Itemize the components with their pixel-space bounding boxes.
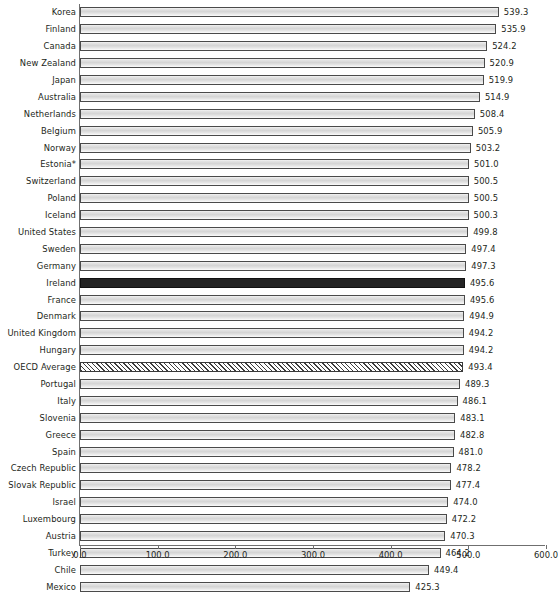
bar	[80, 447, 454, 457]
value-label: 495.6	[470, 278, 494, 288]
x-tick-mark	[391, 545, 392, 549]
category-label: Germany	[0, 261, 76, 271]
category-label: Korea	[0, 7, 76, 17]
value-label: 494.9	[469, 311, 493, 321]
bar	[80, 227, 468, 237]
value-label: 500.3	[474, 210, 498, 220]
bar-row: Austria470.3	[0, 528, 557, 545]
bar	[80, 92, 480, 102]
value-label: 497.3	[471, 261, 495, 271]
bar	[80, 58, 485, 68]
bar-row: Australia514.9	[0, 88, 557, 105]
bar	[80, 41, 487, 51]
bar	[80, 75, 484, 85]
bar	[80, 480, 451, 490]
bar-track: 495.6	[80, 278, 546, 288]
bar	[80, 582, 410, 592]
x-axis-ticks: 0.0100.0200.0300.0400.0500.0600.0	[0, 545, 557, 573]
bar	[80, 143, 471, 153]
x-tick-label: 100.0	[146, 550, 170, 561]
bar-track: 497.4	[80, 244, 546, 254]
bar-row: Italy486.1	[0, 392, 557, 409]
bar-track: 483.1	[80, 413, 546, 423]
bar-track: 474.0	[80, 497, 546, 507]
value-label: 514.9	[485, 92, 509, 102]
bar	[80, 362, 463, 372]
bar-track: 497.3	[80, 261, 546, 271]
value-label: 500.5	[474, 193, 498, 203]
category-label: Switzerland	[0, 176, 76, 186]
bar-track: 505.9	[80, 126, 546, 136]
bar-track: 494.9	[80, 311, 546, 321]
category-label: Austria	[0, 531, 76, 541]
value-label: 497.4	[471, 244, 495, 254]
bar-track: 489.3	[80, 379, 546, 389]
x-tick-label: 600.0	[534, 550, 558, 561]
category-label: Greece	[0, 430, 76, 440]
bar-track: 478.2	[80, 463, 546, 473]
value-label: 500.5	[474, 176, 498, 186]
bar-track: 508.4	[80, 109, 546, 119]
bar	[80, 7, 499, 17]
bar-row: Sweden497.4	[0, 240, 557, 257]
x-tick-label: 0.0	[73, 550, 86, 561]
bar-row: Denmark494.9	[0, 308, 557, 325]
value-label: 482.8	[460, 430, 484, 440]
bar-row: Iceland500.3	[0, 207, 557, 224]
category-label: Spain	[0, 447, 76, 457]
bar	[80, 278, 465, 288]
x-tick-label: 500.0	[456, 550, 480, 561]
value-label: 519.9	[489, 75, 513, 85]
bar-row: Mexico425.3	[0, 578, 557, 595]
value-label: 486.1	[463, 396, 487, 406]
bar	[80, 109, 475, 119]
bar	[80, 159, 469, 169]
bar-row: Slovak Republic477.4	[0, 477, 557, 494]
bar-row: United States499.8	[0, 224, 557, 241]
bar	[80, 244, 466, 254]
value-label: 477.4	[456, 480, 480, 490]
bar-track: 500.5	[80, 193, 546, 203]
bar-row: Canada524.2	[0, 38, 557, 55]
category-label: United States	[0, 227, 76, 237]
bar-row: Israel474.0	[0, 494, 557, 511]
bar-track: 514.9	[80, 92, 546, 102]
value-label: 493.4	[468, 362, 492, 372]
category-label: Slovak Republic	[0, 480, 76, 490]
x-tick-mark	[468, 545, 469, 549]
bar	[80, 261, 466, 271]
bar-row: Japan519.9	[0, 72, 557, 89]
category-label: United Kingdom	[0, 328, 76, 338]
value-label: 474.0	[453, 497, 477, 507]
bar-row: Hungary494.2	[0, 342, 557, 359]
category-label: Luxembourg	[0, 514, 76, 524]
x-tick-mark	[80, 545, 81, 549]
bar-row: Slovenia483.1	[0, 409, 557, 426]
category-label: Norway	[0, 143, 76, 153]
value-label: 494.2	[469, 345, 493, 355]
bar-row: Poland500.5	[0, 190, 557, 207]
bar-track: 501.0	[80, 159, 546, 169]
bar-track: 477.4	[80, 480, 546, 490]
category-label: Portugal	[0, 379, 76, 389]
bar-row: Estonia*501.0	[0, 156, 557, 173]
bar-track: 472.2	[80, 514, 546, 524]
bar-row: Switzerland500.5	[0, 173, 557, 190]
bar-row: Belgium505.9	[0, 122, 557, 139]
category-label: Hungary	[0, 345, 76, 355]
bar-row: Germany497.3	[0, 257, 557, 274]
value-label: 425.3	[415, 582, 439, 592]
category-label: Iceland	[0, 210, 76, 220]
category-label: Israel	[0, 497, 76, 507]
bar	[80, 176, 469, 186]
value-label: 495.6	[470, 295, 494, 305]
category-label: France	[0, 295, 76, 305]
bar-track: 499.8	[80, 227, 546, 237]
value-label: 494.2	[469, 328, 493, 338]
category-label: Ireland	[0, 278, 76, 288]
bar-track: 503.2	[80, 143, 546, 153]
category-label: Finland	[0, 24, 76, 34]
bar-track: 482.8	[80, 430, 546, 440]
bar	[80, 126, 473, 136]
